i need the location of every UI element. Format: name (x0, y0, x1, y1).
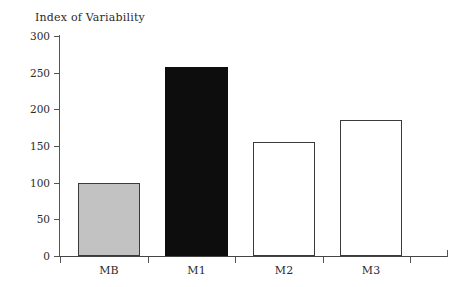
x-axis-tick-label: M1 (187, 264, 205, 277)
bar-m1 (165, 67, 228, 256)
x-axis-tick-label: M2 (275, 264, 293, 277)
y-axis-tick-label: 50 (0, 213, 50, 225)
y-axis-tick-label: 0 (0, 250, 50, 262)
chart-title: Index of Variability (35, 11, 145, 24)
x-axis-tick (235, 257, 236, 263)
y-axis-tick-label: 200 (0, 103, 50, 115)
x-axis-line (59, 256, 448, 257)
y-axis-tick-label: 150 (0, 140, 50, 152)
x-axis-tick-label: M3 (362, 264, 380, 277)
y-axis-tick-label: 300 (0, 30, 50, 42)
bar-chart: Index of Variability 050100150200250300 … (0, 0, 458, 287)
bar-mb (78, 183, 140, 256)
bar-m2 (253, 142, 315, 256)
y-axis-tick-label: 100 (0, 177, 50, 189)
x-axis-tick (323, 257, 324, 263)
x-axis-tick-label: MB (99, 264, 118, 277)
y-axis-tick-label: 250 (0, 67, 50, 79)
bar-m3 (340, 120, 402, 256)
x-axis-tick (410, 257, 411, 263)
x-axis-tick (148, 257, 149, 263)
x-axis-tick (60, 257, 61, 263)
plot-area (60, 36, 448, 256)
